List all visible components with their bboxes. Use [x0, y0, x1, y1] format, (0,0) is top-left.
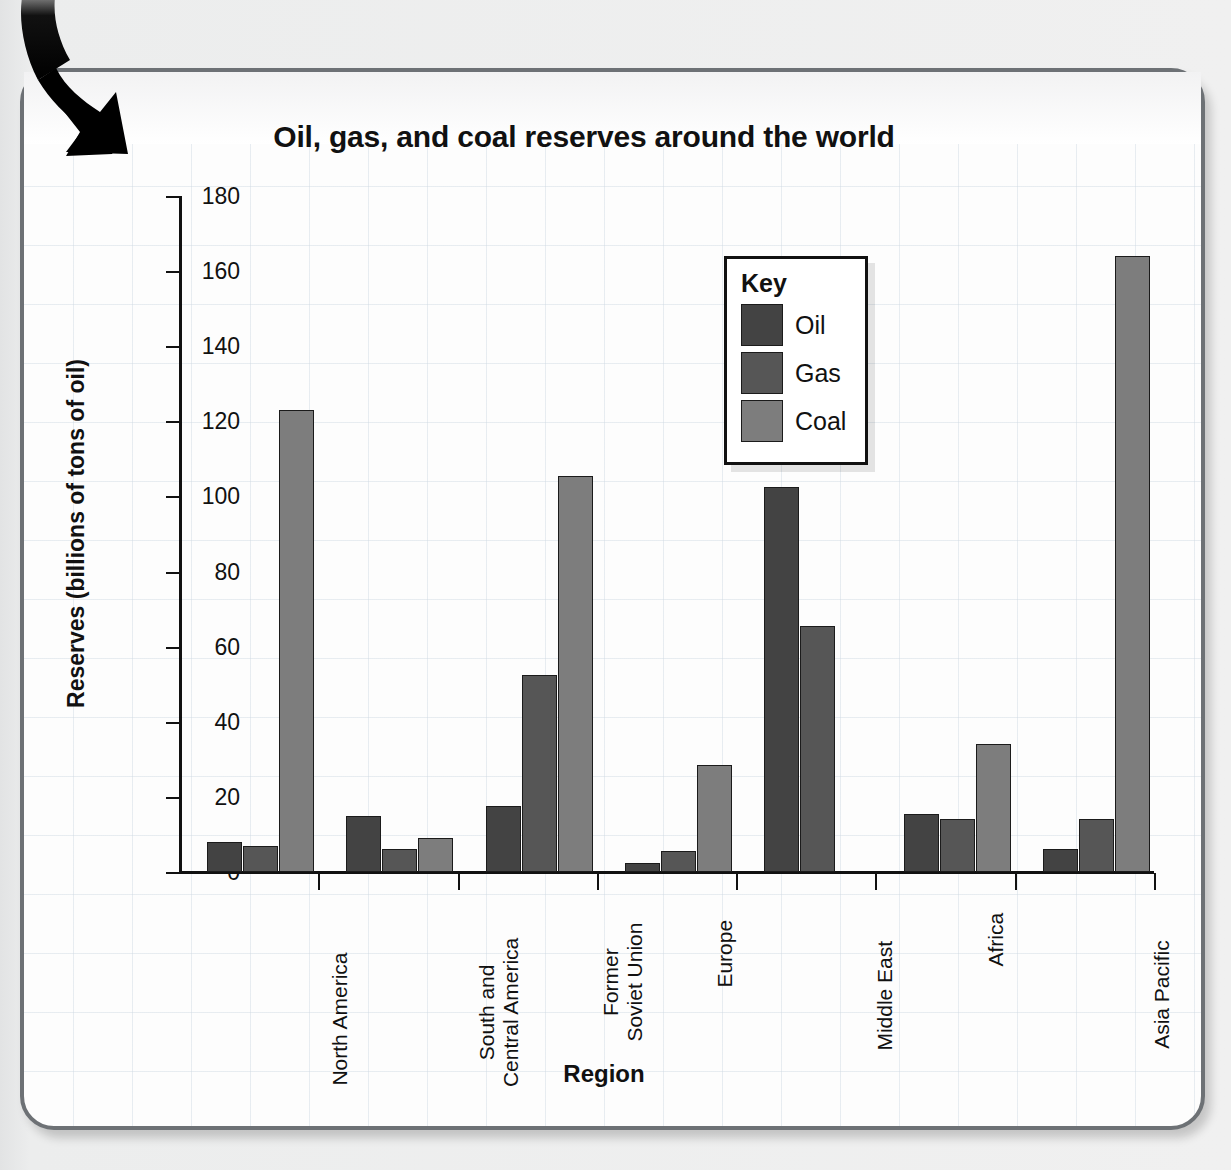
legend-item-gas[interactable]: Gas	[741, 352, 853, 394]
x-category-label: Asia Pacific	[1151, 941, 1175, 1050]
y-tick-mark	[166, 797, 180, 799]
y-tick-mark	[166, 647, 180, 649]
x-category-label: Africa	[984, 913, 1008, 967]
y-tick-mark	[166, 421, 180, 423]
bar-oil[interactable]	[1043, 849, 1078, 872]
x-tick-mark	[875, 873, 877, 890]
chart-page-card: Oil, gas, and coal reserves around the w…	[20, 68, 1205, 1130]
bar-gas[interactable]	[800, 626, 835, 872]
bar-coal[interactable]	[976, 744, 1011, 872]
x-category-label: Europe	[712, 920, 736, 988]
y-tick-mark	[166, 196, 180, 198]
chart-title: Oil, gas, and coal reserves around the w…	[24, 120, 1144, 154]
bar-coal[interactable]	[558, 476, 593, 872]
y-tick-mark	[166, 872, 180, 874]
legend-item-coal[interactable]: Coal	[741, 400, 853, 442]
legend-rows: OilGasCoal	[741, 304, 853, 442]
y-axis-line	[179, 196, 182, 872]
bar-group	[207, 196, 314, 872]
x-category-label: North America	[327, 953, 351, 1086]
legend-swatch-coal	[741, 400, 783, 442]
bar-oil[interactable]	[904, 814, 939, 872]
y-tick-mark	[166, 722, 180, 724]
bar-group	[1043, 196, 1150, 872]
legend-label: Gas	[795, 359, 841, 388]
bar-coal[interactable]	[1115, 256, 1150, 872]
x-tick-mark	[458, 873, 460, 890]
bar-gas[interactable]	[940, 819, 975, 872]
screenshot-stage: Oil, gas, and coal reserves around the w…	[0, 0, 1231, 1170]
legend-label: Oil	[795, 311, 826, 340]
bar-group	[346, 196, 453, 872]
legend-swatch-oil	[741, 304, 783, 346]
bar-oil[interactable]	[207, 842, 242, 872]
x-category-label: South andCentral America	[475, 938, 522, 1087]
y-tick-mark	[166, 271, 180, 273]
x-tick-mark	[597, 873, 599, 890]
x-category-label: FormerSoviet Union	[599, 923, 646, 1042]
bar-oil[interactable]	[346, 816, 381, 872]
bar-coal[interactable]	[697, 765, 732, 872]
y-axis-title: Reserves (billions of tons of oil)	[63, 299, 90, 769]
x-tick-mark	[1154, 873, 1156, 890]
bar-gas[interactable]	[522, 675, 557, 872]
x-tick-mark	[736, 873, 738, 890]
y-tick-mark	[166, 572, 180, 574]
plot-area: 020406080100120140160180 North AmericaSo…	[179, 196, 1154, 872]
legend-item-oil[interactable]: Oil	[741, 304, 853, 346]
bar-gas[interactable]	[382, 849, 417, 872]
x-category-label: Middle East	[873, 941, 897, 1051]
x-tick-mark	[318, 873, 320, 890]
y-tick-mark	[166, 496, 180, 498]
bar-oil[interactable]	[764, 487, 799, 872]
legend-key-box: Key OilGasCoal	[724, 256, 868, 465]
legend-swatch-gas	[741, 352, 783, 394]
bar-gas[interactable]	[661, 851, 696, 872]
bar-coal[interactable]	[418, 838, 453, 872]
bar-group	[904, 196, 1011, 872]
bar-oil[interactable]	[486, 806, 521, 872]
bar-gas[interactable]	[243, 846, 278, 872]
bar-chart: Oil, gas, and coal reserves around the w…	[24, 72, 1209, 1134]
legend-title: Key	[741, 269, 853, 298]
bar-oil[interactable]	[625, 863, 660, 872]
bar-coal[interactable]	[279, 410, 314, 872]
legend-label: Coal	[795, 407, 846, 436]
bar-group	[486, 196, 593, 872]
bar-group	[625, 196, 732, 872]
y-tick-mark	[166, 346, 180, 348]
x-tick-mark	[1015, 873, 1017, 890]
x-axis-title: Region	[174, 1060, 1034, 1088]
bar-gas[interactable]	[1079, 819, 1114, 872]
